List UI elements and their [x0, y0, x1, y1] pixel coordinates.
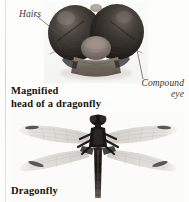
caption-magnified-head: Magnified head of a dragonfly — [11, 84, 101, 110]
caption-dragonfly: Dragonfly — [11, 184, 58, 197]
margin-rule — [5, 0, 6, 202]
figure-page: Hairs Compound eye Magnified head of a d… — [0, 0, 189, 202]
callout-compound-eye: Compound eye — [128, 78, 184, 99]
compound-eye-leader-line — [135, 50, 149, 80]
callout-hairs: Hairs — [19, 9, 41, 20]
